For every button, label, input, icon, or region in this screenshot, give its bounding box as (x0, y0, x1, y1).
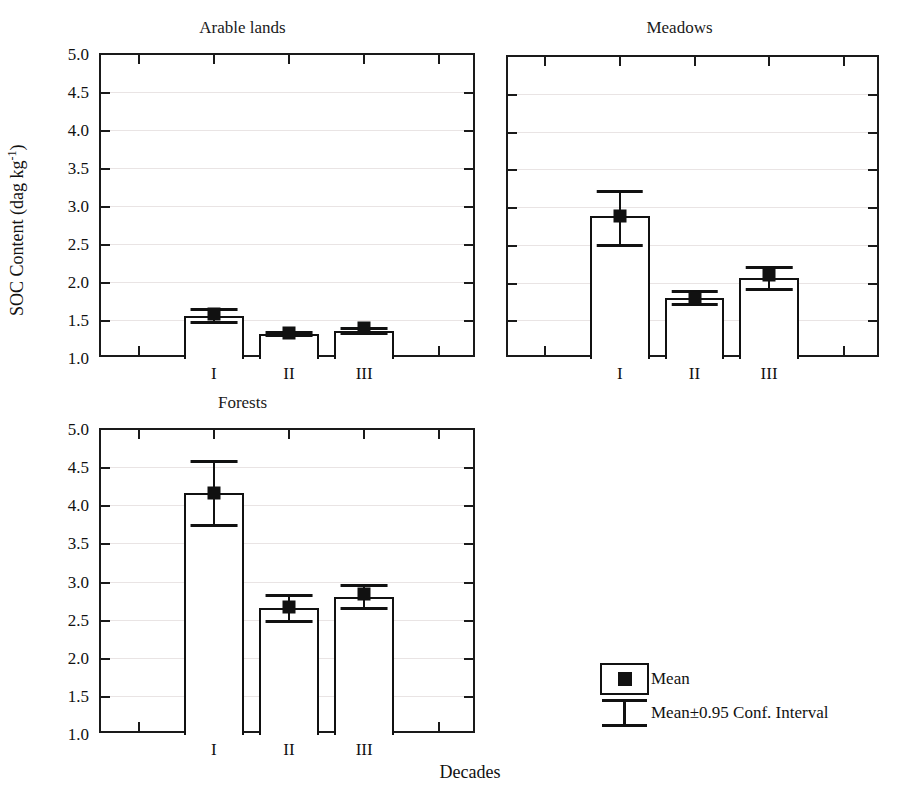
y-axis-tick (101, 543, 110, 545)
x-axis-tick (363, 55, 365, 64)
plot-area-meadows: IIIIII (506, 55, 879, 357)
legend-label-confidence-interval: Mean±0.95 Conf. Interval (651, 703, 828, 723)
error-bar-icon (600, 697, 649, 729)
x-axis-tick (138, 55, 140, 64)
x-axis-tick (768, 57, 770, 66)
gridline (101, 320, 473, 321)
x-axis-tick-label: III (356, 741, 373, 759)
bar (259, 608, 319, 735)
y-axis-tick (101, 620, 110, 622)
y-axis-tick (464, 282, 473, 284)
x-axis-tick (288, 55, 290, 64)
y-axis-tick (508, 94, 517, 96)
y-axis-tick-label: 2.0 (43, 274, 89, 291)
gridline (101, 543, 473, 544)
y-axis-tick (464, 244, 473, 246)
bar (184, 493, 244, 735)
x-axis-tick (138, 722, 140, 731)
y-axis-tick (464, 206, 473, 208)
x-axis-tick (138, 430, 140, 439)
legend: Mean Mean±0.95 Conf. Interval (600, 662, 828, 730)
y-axis-tick (464, 320, 473, 322)
mean-marker (283, 327, 296, 340)
y-axis-tick (868, 132, 877, 134)
y-axis-tick-label: 3.5 (43, 160, 89, 177)
x-axis-tick (544, 346, 546, 355)
x-axis-tick (438, 346, 440, 355)
panel-forests: Forests 1.01.52.02.53.03.54.04.55.0IIIII… (0, 393, 485, 783)
x-axis-tick (288, 430, 290, 439)
gridline (101, 467, 473, 468)
x-axis-tick-label: I (211, 365, 217, 383)
x-axis-tick (363, 430, 365, 439)
y-axis-tick (101, 282, 110, 284)
y-axis-tick (101, 92, 110, 94)
mean-marker (688, 291, 701, 304)
y-axis-tick (868, 245, 877, 247)
gridline (508, 283, 877, 284)
error-bar-cap-upper (597, 190, 644, 193)
y-axis-tick (464, 620, 473, 622)
plot-area-arable-lands: 1.01.52.02.53.03.54.04.55.0IIIIII (99, 53, 475, 357)
error-bar-cap-upper (266, 594, 313, 597)
error-bar-cap-lower (190, 524, 237, 527)
gridline (101, 92, 473, 93)
y-axis-tick (868, 207, 877, 209)
x-axis-tick (619, 57, 621, 66)
error-bar-cap-lower (746, 288, 793, 291)
y-axis-tick (508, 207, 517, 209)
y-axis-tick (464, 543, 473, 545)
y-axis-tick (101, 467, 110, 469)
x-axis-tick (843, 57, 845, 66)
y-axis-tick (868, 320, 877, 322)
x-axis-tick-label: III (356, 365, 373, 383)
bar (665, 298, 725, 359)
x-axis-tick (438, 430, 440, 439)
y-axis-tick (508, 169, 517, 171)
x-axis-tick (438, 55, 440, 64)
x-axis-tick (843, 346, 845, 355)
panel-title-forests: Forests (0, 393, 485, 413)
gridline (508, 207, 877, 208)
y-axis-tick (508, 132, 517, 134)
mean-marker (613, 209, 626, 222)
y-axis-tick (508, 245, 517, 247)
gridline (508, 132, 877, 133)
gridline (101, 505, 473, 506)
gridline (508, 94, 877, 95)
y-axis-tick (101, 658, 110, 660)
x-axis-tick (694, 57, 696, 66)
gridline (508, 169, 877, 170)
mean-marker (763, 269, 776, 282)
gridline (101, 282, 473, 283)
y-axis-tick (464, 130, 473, 132)
y-axis-tick (464, 658, 473, 660)
mean-marker-icon (600, 663, 649, 695)
x-axis-tick-label: II (283, 365, 294, 383)
x-axis-tick (138, 346, 140, 355)
legend-row-confidence-interval: Mean±0.95 Conf. Interval (600, 696, 828, 730)
x-axis-tick (544, 57, 546, 66)
error-bar-cap-upper (190, 460, 237, 463)
legend-label-mean: Mean (651, 669, 690, 689)
y-axis-tick (464, 168, 473, 170)
y-axis-tick (101, 206, 110, 208)
y-axis-tick-label: 2.5 (43, 612, 89, 629)
mean-marker (207, 486, 220, 499)
error-bar-cap-lower (266, 620, 313, 623)
x-axis-tick-label: III (761, 365, 778, 383)
y-axis-tick (101, 582, 110, 584)
y-axis-tick-label: 1.5 (43, 688, 89, 705)
y-axis-tick (508, 283, 517, 285)
y-axis-tick-label: 3.0 (43, 198, 89, 215)
panel-title-arable-lands: Arable lands (0, 18, 485, 38)
y-axis-tick (101, 320, 110, 322)
gridline (101, 206, 473, 207)
x-axis-tick (213, 55, 215, 64)
mean-marker (358, 587, 371, 600)
y-axis-tick-label: 5.0 (43, 421, 89, 438)
y-axis-tick (464, 92, 473, 94)
x-axis-tick-label: II (689, 365, 700, 383)
y-axis-tick (464, 505, 473, 507)
y-axis-tick-label: 2.5 (43, 236, 89, 253)
